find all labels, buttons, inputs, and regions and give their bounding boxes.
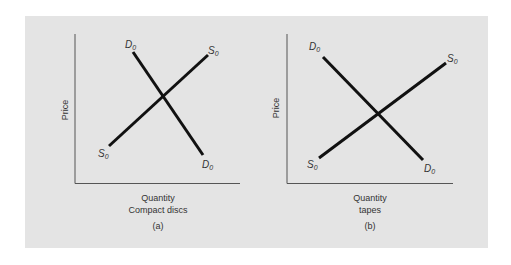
x-axis-label-b-line1: Quantity: [353, 193, 387, 203]
supply-label-bottom-b: S0: [307, 159, 318, 171]
demand-label-top-a: D0: [125, 39, 136, 51]
demand-label-bottom-a: D0: [202, 159, 213, 171]
demand-label-top-b: D0: [309, 41, 320, 53]
caption-a: (a): [153, 221, 164, 231]
x-axis-label-b-line2: tapes: [359, 205, 382, 215]
supply-demand-figure: D0 S0 S0 D0 Price Quantity Compact discs…: [0, 0, 511, 265]
supply-label-top-b: S0: [447, 53, 458, 65]
supply-label-bottom-a: S0: [98, 148, 109, 160]
y-axis-label-b: Price: [271, 98, 281, 119]
supply-curve-a: [109, 55, 208, 146]
chart-a: D0 S0 S0 D0 Price Quantity Compact discs…: [60, 34, 240, 231]
chart-b: D0 S0 S0 D0 Price Quantity tapes (b): [271, 34, 458, 231]
y-axis-label-a: Price: [60, 100, 70, 121]
x-axis-label-a-line2: Compact discs: [128, 205, 188, 215]
x-axis-label-a-line1: Quantity: [141, 193, 175, 203]
supply-curve-b: [319, 63, 446, 158]
caption-b: (b): [365, 221, 376, 231]
supply-label-top-a: S0: [208, 45, 219, 57]
demand-label-bottom-b: D0: [424, 163, 435, 175]
